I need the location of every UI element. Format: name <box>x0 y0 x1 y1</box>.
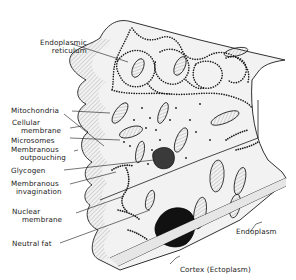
label-membranous-outpouching: Membranous outpouching <box>11 146 66 162</box>
label-membranous-invagination: Membranous invagination <box>11 180 62 196</box>
label-glycogen: Glycogen <box>11 167 46 175</box>
label-line: invagination <box>11 188 62 196</box>
label-microsomes: Microsomes <box>11 137 55 145</box>
label-neutral-fat: Neutral fat <box>12 240 52 248</box>
label-endoplasmic-reticulum: Endoplasmic reticulum <box>40 39 87 55</box>
label-line: membrane <box>12 127 61 135</box>
label-nuclear-membrane: Nuclear membrane <box>12 208 62 224</box>
label-line: reticulum <box>40 47 87 55</box>
label-mitochondria: Mitochondria <box>11 107 59 115</box>
glycogen <box>153 148 175 169</box>
label-line: outpouching <box>11 154 66 162</box>
label-endoplasm: Endoplasm <box>236 228 277 236</box>
label-cortex-ectoplasm: Cortex (Ectoplasm) <box>180 266 251 274</box>
label-line: membrane <box>12 216 62 224</box>
label-cellular-membrane: Cellular membrane <box>12 119 61 135</box>
cell-diagram: Endoplasmic reticulum Mitochondria Cellu… <box>0 0 296 280</box>
